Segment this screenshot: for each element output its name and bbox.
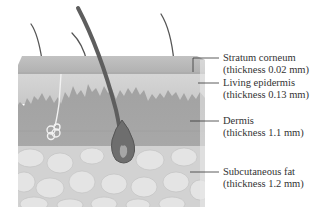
layer-name: Dermis [223,115,304,127]
layer-thickness: (thickness 1.1 mm) [223,127,304,139]
label-dermis: Dermis (thickness 1.1 mm) [223,115,304,139]
layer-thickness: (thickness 0.13 mm) [223,89,309,101]
label-living-epidermis: Living epidermis (thickness 0.13 mm) [223,77,309,101]
layer-name: Subcutaneous fat [223,166,304,178]
layer-name: Stratum corneum [223,52,309,64]
label-stratum-corneum: Stratum corneum (thickness 0.02 mm) [223,52,309,76]
layer-name: Living epidermis [223,77,309,89]
stratum-corneum-layer [15,54,210,74]
surface-hairs [31,14,174,62]
skin-diagram: Stratum corneum (thickness 0.02 mm) Livi… [0,0,327,215]
layer-thickness: (thickness 0.02 mm) [223,64,309,76]
label-subcutaneous-fat: Subcutaneous fat (thickness 1.2 mm) [223,166,304,190]
layer-thickness: (thickness 1.2 mm) [223,178,304,190]
